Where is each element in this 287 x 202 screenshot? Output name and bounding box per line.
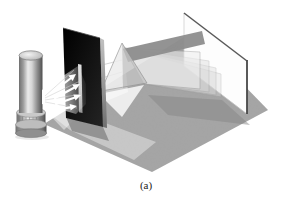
figure-caption: (a) xyxy=(140,179,153,192)
figure-optics-prism-dispersion: (a) xyxy=(0,0,287,202)
lamp-foot-bottom xyxy=(16,129,47,138)
lamp-top-cap xyxy=(19,51,43,60)
lamp-foot-rim xyxy=(16,120,47,130)
lamp-body xyxy=(19,56,43,114)
diagram-canvas: (a) xyxy=(0,0,287,202)
